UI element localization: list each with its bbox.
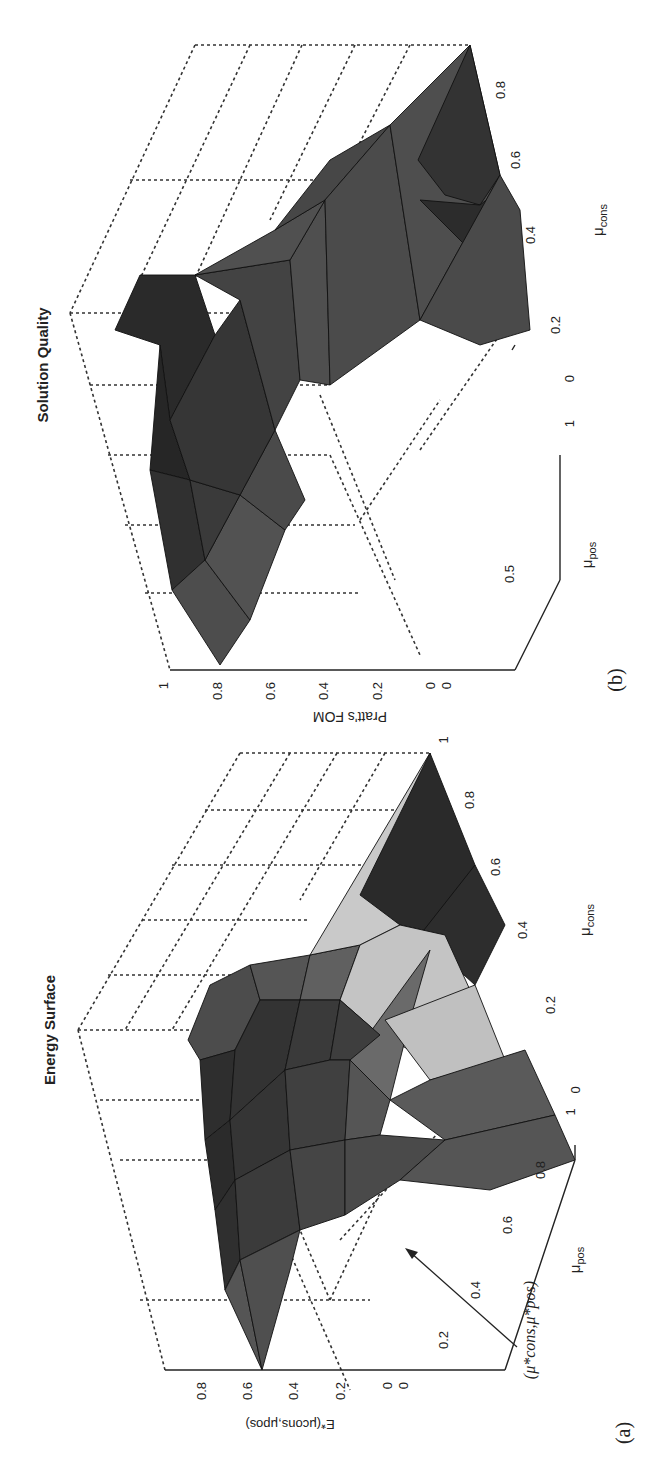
y-tick: 0.6 bbox=[500, 1216, 515, 1234]
panel-b-zlabel: Pratt's FOM bbox=[313, 709, 387, 725]
z-tick: 0.4 bbox=[286, 1382, 301, 1400]
panel-a-xlabel: μcons bbox=[576, 904, 596, 936]
z-tick: 0.6 bbox=[240, 1382, 255, 1400]
y-tick: 0 bbox=[396, 1382, 411, 1389]
y-tick: 0 bbox=[439, 682, 454, 689]
panel-a: Energy Surface 0.8 0.6 0.4 0.2 0 E*(μcon… bbox=[41, 736, 635, 1444]
panel-a-label: (a) bbox=[612, 1422, 635, 1444]
panel-a-ylabel: μpos bbox=[566, 1246, 586, 1273]
x-tick: 0.2 bbox=[543, 996, 558, 1014]
x-tick: 0.8 bbox=[493, 81, 508, 99]
x-tick: 0.6 bbox=[508, 151, 523, 169]
panel-b-label: (b) bbox=[604, 668, 627, 691]
z-tick: 0 bbox=[423, 682, 438, 689]
z-tick: 0.4 bbox=[316, 682, 331, 700]
y-tick: 1 bbox=[562, 420, 577, 427]
z-tick: 0.2 bbox=[333, 1382, 348, 1400]
z-tick: 0.6 bbox=[263, 682, 278, 700]
figure-canvas: Solution Quality 1 0.8 0.6 0.4 0.2 0 Pra… bbox=[0, 0, 660, 1475]
x-tick: 0 bbox=[562, 375, 577, 382]
x-tick: 0.2 bbox=[548, 316, 563, 334]
z-tick: 0.2 bbox=[370, 682, 385, 700]
panel-b-ylabel: μpos bbox=[578, 541, 598, 568]
panel-b: Solution Quality 1 0.8 0.6 0.4 0.2 0 Pra… bbox=[34, 45, 627, 725]
z-tick: 0 bbox=[380, 1382, 395, 1389]
panel-b-surface bbox=[115, 45, 530, 665]
y-tick: 0.5 bbox=[502, 565, 517, 583]
x-tick: 0.4 bbox=[515, 921, 530, 939]
x-tick: 1 bbox=[436, 736, 451, 743]
panel-b-y-ticks: 0 0.5 1 bbox=[439, 420, 577, 689]
z-tick: 0.8 bbox=[194, 1382, 209, 1400]
figure: Solution Quality 1 0.8 0.6 0.4 0.2 0 Pra… bbox=[0, 0, 660, 1475]
annotation-label: (μ*cons,μ*pos) bbox=[521, 1281, 539, 1379]
z-tick: 0.8 bbox=[210, 682, 225, 700]
panel-b-xlabel: μcons bbox=[589, 204, 609, 236]
y-tick: 0.8 bbox=[533, 1161, 548, 1179]
y-tick: 1 bbox=[563, 1108, 578, 1115]
panel-b-title: Solution Quality bbox=[34, 307, 51, 423]
panel-a-title: Energy Surface bbox=[41, 975, 58, 1085]
panel-a-z-ticks: 0.8 0.6 0.4 0.2 0 bbox=[194, 1382, 395, 1400]
x-tick: 0.6 bbox=[488, 858, 503, 876]
y-tick: 0.2 bbox=[436, 1331, 451, 1349]
panel-b-z-ticks: 1 0.8 0.6 0.4 0.2 0 bbox=[156, 682, 438, 700]
y-tick: 0.4 bbox=[468, 1281, 483, 1299]
panel-a-annotation: (μ*cons,μ*pos) bbox=[405, 1248, 539, 1379]
x-tick: 0.4 bbox=[523, 226, 538, 244]
annotation-arrow bbox=[410, 1252, 517, 1347]
panel-a-zlabel: E*(μcons,μpos) bbox=[245, 1417, 334, 1432]
panel-a-surface bbox=[188, 753, 575, 1370]
x-tick: 0 bbox=[568, 1086, 583, 1093]
x-tick: 0.8 bbox=[462, 791, 477, 809]
z-tick: 1 bbox=[156, 682, 171, 689]
